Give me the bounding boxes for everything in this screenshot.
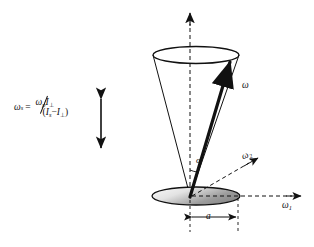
formula-fraction: ωpI⊥ (Is−I⊥) bbox=[33, 97, 70, 119]
formula-equals: = bbox=[25, 102, 30, 113]
cone-top-ellipse bbox=[153, 47, 239, 64]
alpha-angle-arc bbox=[190, 170, 197, 172]
label-alpha: α bbox=[196, 155, 201, 165]
omega-vector bbox=[190, 62, 230, 197]
label-omega1-symbol: ω bbox=[282, 200, 289, 210]
formula-lhs-symbol: ω bbox=[14, 102, 21, 113]
formula-lhs-subscript: s bbox=[21, 104, 24, 111]
label-radius-a: a bbox=[206, 211, 211, 221]
label-alpha-symbol: α bbox=[196, 155, 201, 165]
fraction-denominator: (Is−I⊥) bbox=[34, 107, 69, 118]
label-omega-symbol: ω bbox=[242, 80, 249, 90]
label-omega: ω bbox=[242, 80, 249, 90]
diagram-svg bbox=[0, 0, 314, 247]
figure-canvas: ωs = ωpI⊥ (Is−I⊥) ω ω2 ω1 α a bbox=[0, 0, 314, 247]
label-omega1: ω1 bbox=[282, 200, 292, 211]
label-omega1-subscript: 1 bbox=[289, 204, 292, 211]
label-radius-a-symbol: a bbox=[206, 211, 211, 221]
spin-rate-formula: ωs = ωpI⊥ (Is−I⊥) bbox=[14, 97, 100, 119]
cone-left-slant bbox=[153, 55, 190, 196]
denominator-close-paren: ) bbox=[65, 107, 68, 117]
omega-vector-arrow bbox=[190, 62, 230, 197]
